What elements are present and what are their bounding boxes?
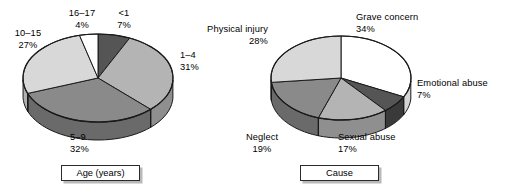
cause-label-physical-injury-pct: 28%	[186, 36, 268, 48]
cause-label-neglect: Neglect 19%	[236, 132, 288, 155]
cause-label-grave-concern: Grave concern 34%	[356, 12, 446, 35]
cause-label-grave-concern-name: Grave concern	[356, 12, 418, 22]
cause-label-emotional-abuse-name: Emotional abuse	[417, 78, 488, 88]
cause-label-sexual-abuse-name: Sexual abuse	[338, 132, 396, 142]
cause-label-emotional-abuse-pct: 7%	[417, 90, 509, 102]
cause-label-neglect-name: Neglect	[246, 132, 278, 142]
cause-label-grave-concern-pct: 34%	[356, 24, 446, 36]
cause-label-neglect-pct: 19%	[236, 144, 288, 156]
cause-caption-box: Cause	[300, 165, 379, 181]
cause-label-physical-injury: Physical injury 28%	[186, 24, 268, 47]
cause-label-emotional-abuse: Emotional abuse 7%	[417, 78, 509, 101]
cause-label-sexual-abuse-pct: 17%	[338, 144, 418, 156]
pie-slice	[271, 36, 341, 82]
figure-canvas: 16–17 4% <1 7% 10–15 27% 1–4 31% 5–9 32%…	[0, 0, 509, 196]
cause-label-physical-injury-name: Physical injury	[207, 24, 268, 34]
cause-caption-text: Cause	[326, 168, 353, 178]
cause-label-sexual-abuse: Sexual abuse 17%	[338, 132, 418, 155]
